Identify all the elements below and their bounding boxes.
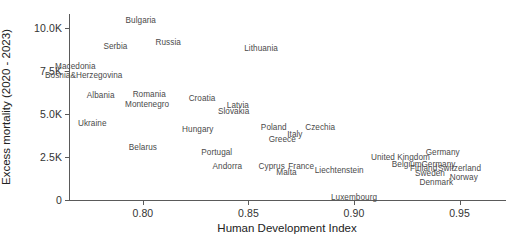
data-point-label: Macedonia <box>55 61 96 70</box>
scatter-chart: 0.800.850.900.95 02.5K5.0K7.5K10.0K Huma… <box>0 0 514 242</box>
data-point-label: Malta <box>276 168 296 177</box>
data-point-label: Bulgaria <box>126 16 156 25</box>
data-point-label: Belarus <box>129 142 157 151</box>
data-point-label: Russia <box>156 38 181 47</box>
x-tick-label: 0.90 <box>344 207 365 219</box>
data-point-label: Bosnia&Herzegovina <box>45 71 122 80</box>
data-point-label: Liechtenstein <box>315 165 364 174</box>
data-point-label: Hungary <box>182 124 213 133</box>
y-tick-label: 0 <box>56 194 62 206</box>
x-tick-label: 0.80 <box>132 207 153 219</box>
data-point-label: Romania <box>133 90 166 99</box>
data-point-label: Czechia <box>305 122 335 131</box>
y-tick-label: 5.0K <box>40 108 62 120</box>
x-axis-line <box>69 200 506 201</box>
data-point-label: Andorra <box>213 162 242 171</box>
data-point-label: Lithuania <box>244 44 278 53</box>
data-point-label: Portugal <box>201 147 232 156</box>
data-point-label: Poland <box>261 122 287 131</box>
x-tick-mark <box>460 201 461 205</box>
x-tick-label: 0.85 <box>238 207 259 219</box>
x-axis-title: Human Development Index <box>217 222 356 234</box>
data-point-label: Montenegro <box>125 99 169 108</box>
y-tick-label: 2.5K <box>40 151 62 163</box>
data-point-label: Serbia <box>103 41 127 50</box>
data-point-label: Albania <box>87 90 115 99</box>
data-point-label: Ukraine <box>78 119 107 128</box>
data-point-label: Norway <box>450 172 478 181</box>
data-point-label: Germany <box>426 147 460 156</box>
y-tick-mark <box>65 200 69 201</box>
x-tick-mark <box>248 201 249 205</box>
data-point-label: Greece <box>269 134 296 143</box>
x-tick-label: 0.95 <box>449 207 470 219</box>
y-axis-title: Excess mortality (2020 - 2023) <box>0 29 12 185</box>
data-point-label: Slovakia <box>218 107 249 116</box>
data-point-label: Luxembourg <box>331 193 377 202</box>
data-point-label: Croatia <box>189 94 216 103</box>
data-point-label: Denmark <box>420 177 454 186</box>
x-tick-mark <box>143 201 144 205</box>
y-tick-label: 10.0K <box>34 22 62 34</box>
